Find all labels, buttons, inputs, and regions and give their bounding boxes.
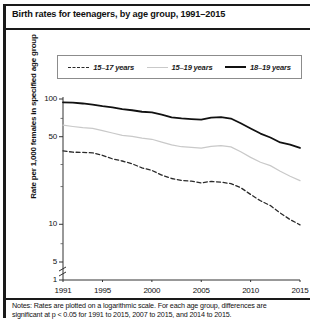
x-tick-label: 2015 — [283, 286, 314, 295]
legend-swatch-dashed-icon — [68, 67, 89, 68]
legend-item-15-19: 15–19 years — [147, 63, 213, 72]
figure-notes: Notes: Rates are plotted on a logarithmi… — [12, 302, 308, 319]
chart-legend: 15–17 years 15–19 years 18–19 years — [57, 55, 302, 79]
legend-item-15-17: 15–17 years — [68, 63, 134, 72]
figure-panel: Birth rates for teenagers, by age group,… — [0, 0, 314, 322]
frame-top-rule — [3, 4, 310, 6]
legend-label-18-19: 18–19 years — [250, 63, 291, 72]
y-tick-label: 1 — [33, 275, 57, 284]
y-tick-label: 5 — [33, 257, 57, 266]
y-tick-label: 10 — [33, 219, 57, 228]
legend-label-15-17: 15–17 years — [93, 63, 134, 72]
line-chart — [55, 96, 303, 282]
x-tick-label: 2005 — [184, 286, 218, 295]
notes-line-2: significant at p < 0.05 for 1991 to 2015… — [12, 311, 308, 320]
x-tick-label: 2010 — [234, 286, 268, 295]
notes-divider — [3, 298, 310, 300]
series-line-15-17 — [63, 151, 300, 225]
x-tick-label: 1995 — [86, 286, 120, 295]
chart-plot-area — [55, 96, 303, 282]
x-tick-label: 1991 — [46, 286, 80, 295]
legend-swatch-bold-icon — [225, 66, 246, 68]
legend-item-18-19: 18–19 years — [225, 63, 291, 72]
y-axis-title: Rate per 1,000 females in specified age … — [29, 22, 38, 212]
x-tick-label: 2000 — [135, 286, 169, 295]
series-line-15-19 — [63, 125, 300, 180]
title-divider — [3, 28, 310, 30]
page-title: Birth rates for teenagers, by age group,… — [12, 9, 306, 20]
y-tick-label: 100 — [33, 94, 57, 103]
legend-swatch-light-icon — [147, 67, 168, 68]
legend-label-15-19: 15–19 years — [172, 63, 213, 72]
frame-left-rule — [3, 4, 6, 318]
y-tick-label: 50 — [33, 132, 57, 141]
series-line-18-19 — [63, 102, 300, 148]
